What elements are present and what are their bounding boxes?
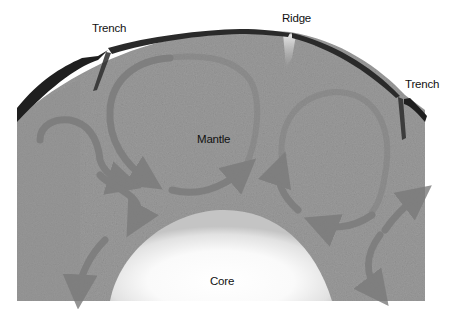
label-trench-left: Trench bbox=[92, 22, 126, 34]
mantle-convection-diagram bbox=[0, 0, 449, 319]
label-trench-right: Trench bbox=[405, 78, 439, 90]
label-core: Core bbox=[210, 275, 234, 287]
label-mantle: Mantle bbox=[197, 133, 230, 145]
label-ridge: Ridge bbox=[282, 12, 311, 24]
